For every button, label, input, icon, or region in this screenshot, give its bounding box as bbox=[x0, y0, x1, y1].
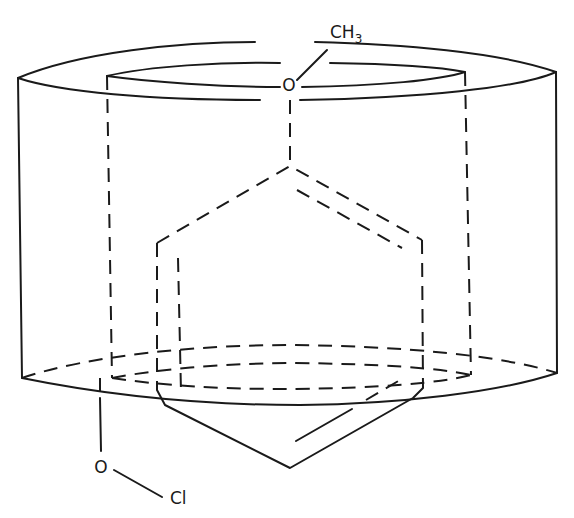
top-oxygen-label: O bbox=[282, 75, 295, 95]
outer-cylinder-bottom-rim bbox=[22, 345, 557, 405]
bottom-oxygen-label: O bbox=[94, 457, 107, 477]
hypochlorite-group: O Cl bbox=[94, 378, 186, 508]
outer-cylinder-walls bbox=[18, 72, 557, 378]
inner-cylinder-walls bbox=[107, 72, 471, 378]
cyclodextrin-inclusion-diagram: O CH3 O Cl bbox=[0, 0, 574, 518]
chlorine-label: Cl bbox=[170, 488, 187, 508]
methoxy-group: O CH3 bbox=[282, 22, 362, 95]
benzene-ring bbox=[157, 166, 423, 468]
inner-cylinder-bottom-rim bbox=[112, 363, 471, 389]
